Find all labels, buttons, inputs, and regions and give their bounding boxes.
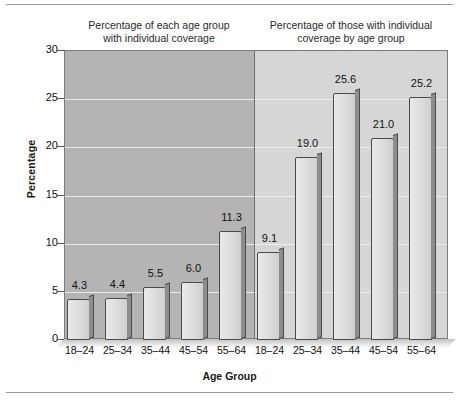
y-axis-tickmark-10 bbox=[57, 243, 64, 244]
gridline-25 bbox=[65, 99, 447, 100]
bar-side-face bbox=[241, 227, 246, 339]
bar bbox=[295, 157, 318, 340]
bar-value-label: 9.1 bbox=[249, 232, 291, 244]
bar-value-label: 19.0 bbox=[287, 137, 329, 149]
bar-value-label: 5.5 bbox=[135, 267, 177, 279]
bar-side-face bbox=[203, 278, 208, 339]
panel-header-right-line2: coverage by age group bbox=[254, 32, 448, 45]
plot-area bbox=[64, 50, 448, 339]
bar bbox=[105, 298, 128, 340]
bar-value-label: 4.4 bbox=[97, 278, 139, 290]
y-axis-tick-25: 25 bbox=[0, 91, 58, 103]
bar-value-label: 25.6 bbox=[325, 73, 367, 85]
bar-side-face bbox=[355, 89, 360, 339]
bar-side-face bbox=[127, 293, 132, 339]
x-axis-title: Age Group bbox=[0, 370, 459, 382]
bar bbox=[67, 299, 90, 340]
y-axis-tickmark-30 bbox=[57, 50, 64, 51]
panel-header-left-line2: with individual coverage bbox=[64, 32, 254, 45]
bar-value-label: 21.0 bbox=[363, 118, 405, 130]
y-axis-tickmark-25 bbox=[57, 98, 64, 99]
bar bbox=[219, 231, 242, 340]
y-axis-tickmark-5 bbox=[57, 291, 64, 292]
bar-value-label: 6.0 bbox=[173, 262, 215, 274]
panel-header-right: Percentage of those with individual cove… bbox=[254, 19, 448, 45]
y-axis-tick-0: 0 bbox=[0, 332, 58, 344]
bar-side-face bbox=[431, 93, 436, 339]
y-axis-tickmark-20 bbox=[57, 146, 64, 147]
panel-divider bbox=[254, 51, 255, 338]
y-axis-title: Percentage bbox=[25, 124, 37, 214]
bar-side-face bbox=[317, 152, 322, 339]
bar-side-face bbox=[165, 282, 170, 339]
bar bbox=[371, 138, 394, 340]
bar bbox=[143, 287, 166, 340]
bottom-divider-rule bbox=[6, 392, 453, 393]
x-axis-tick-label: 55–64 bbox=[399, 344, 445, 356]
bar-side-face bbox=[393, 133, 398, 339]
bar bbox=[257, 252, 280, 340]
bar-side-face bbox=[89, 294, 94, 339]
panel-header-right-line1: Percentage of those with individual bbox=[254, 19, 448, 32]
y-axis-tick-20: 20 bbox=[0, 139, 58, 151]
bar-side-face bbox=[279, 248, 284, 339]
panel-header-left-line1: Percentage of each age group bbox=[64, 19, 254, 32]
bar-value-label: 4.3 bbox=[59, 279, 101, 291]
bar bbox=[333, 93, 356, 340]
bar bbox=[409, 97, 432, 340]
bar bbox=[181, 282, 204, 340]
top-divider-rule bbox=[6, 4, 453, 5]
y-axis-tick-5: 5 bbox=[0, 284, 58, 296]
y-axis-tick-10: 10 bbox=[0, 236, 58, 248]
y-axis-tickmark-15 bbox=[57, 195, 64, 196]
y-axis-tick-15: 15 bbox=[0, 188, 58, 200]
bar-value-label: 25.2 bbox=[401, 77, 443, 89]
y-axis-tick-30: 30 bbox=[0, 43, 58, 55]
bar-value-label: 11.3 bbox=[211, 211, 253, 223]
panel-header-left: Percentage of each age group with indivi… bbox=[64, 19, 254, 45]
